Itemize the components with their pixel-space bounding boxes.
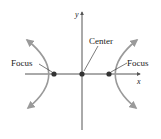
focus-left-point <box>51 71 56 76</box>
focus-left-label: Focus <box>11 58 33 68</box>
center-point <box>79 71 84 76</box>
focus-right-point <box>106 71 111 76</box>
x-axis-label: x <box>136 77 141 86</box>
hyperbola-diagram: x y Focus Center Focus <box>0 0 161 139</box>
center-label: Center <box>89 36 113 46</box>
center-leader <box>84 46 98 71</box>
focus-left-leader <box>39 64 52 72</box>
focus-right-leader <box>111 63 127 72</box>
y-axis-label: y <box>74 10 79 19</box>
focus-right-label: Focus <box>127 58 149 68</box>
